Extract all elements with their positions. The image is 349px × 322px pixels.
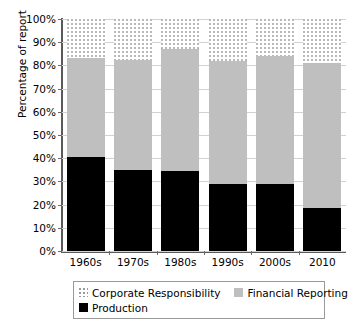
x-axis-tick-labels: 1960s1970s1980s1990s2000s2010	[62, 256, 346, 274]
y-axis-tick-label: 40%	[9, 152, 56, 164]
bar-1990s	[209, 19, 247, 251]
legend-label-financial-reporting: Financial Reporting	[247, 287, 347, 299]
y-axis-tick-label: 30%	[9, 175, 56, 187]
y-axis-tick-mark	[58, 251, 62, 252]
x-axis-tick-label: 1980s	[156, 256, 204, 268]
bar-segment-corporate-responsibility	[209, 19, 247, 61]
y-axis-tick-mark	[58, 19, 62, 20]
legend-label-corporate-responsibility: Corporate Responsibility	[92, 287, 220, 299]
plot-area: 0%10%20%30%40%50%60%70%80%90%100%	[62, 19, 346, 251]
x-axis-tick-label: 1970s	[109, 256, 157, 268]
bar-segment-financial-reporting	[67, 58, 105, 157]
bar-segment-corporate-responsibility	[67, 19, 105, 58]
bar-segment-production	[303, 208, 341, 251]
bar-segment-financial-reporting	[114, 60, 152, 170]
bar-1960s	[67, 19, 105, 251]
legend-row-1: Corporate Responsibility Financial Repor…	[79, 285, 319, 300]
y-axis-tick-label: 20%	[9, 199, 56, 211]
y-axis-tick-label: 50%	[9, 129, 56, 141]
x-axis-tick-mark	[251, 251, 252, 255]
legend-swatch-black-icon	[79, 303, 88, 312]
y-axis-tick-mark	[58, 135, 62, 136]
y-axis-tick-mark	[58, 205, 62, 206]
y-axis-tick-label: 60%	[9, 106, 56, 118]
y-axis-tick-mark	[58, 158, 62, 159]
x-axis-tick-mark	[109, 251, 110, 255]
bar-segment-financial-reporting	[256, 56, 294, 184]
bar-2000s	[256, 19, 294, 251]
bar-2010	[303, 19, 341, 251]
bar-segment-production	[256, 184, 294, 251]
x-axis-tick-mark	[204, 251, 205, 255]
bar-1970s	[114, 19, 152, 251]
y-axis-tick-label: 100%	[9, 13, 56, 25]
legend-label-production: Production	[92, 302, 148, 314]
legend-item-production: Production	[79, 302, 148, 314]
y-axis-tick-label: 10%	[9, 222, 56, 234]
legend-item-corporate-responsibility: Corporate Responsibility	[79, 287, 220, 299]
bar-segment-financial-reporting	[209, 61, 247, 184]
legend-item-financial-reporting: Financial Reporting	[234, 287, 347, 299]
y-axis-tick-mark	[58, 89, 62, 90]
bar-segment-production	[161, 171, 199, 251]
y-axis-tick-mark	[58, 65, 62, 66]
x-axis-tick-label: 2000s	[251, 256, 299, 268]
y-axis-tick-label: 0%	[9, 245, 56, 257]
y-axis-tick-mark	[58, 42, 62, 43]
y-axis-tick-mark	[58, 181, 62, 182]
y-axis-tick-mark	[58, 112, 62, 113]
bar-segment-financial-reporting	[303, 63, 341, 208]
y-axis-tick-label: 90%	[9, 36, 56, 48]
bar-segment-corporate-responsibility	[161, 19, 199, 49]
legend-row-2: Production	[79, 300, 319, 315]
bar-segment-production	[114, 170, 152, 251]
bar-segment-corporate-responsibility	[114, 19, 152, 60]
legend-swatch-gray-icon	[234, 288, 243, 297]
bar-segment-production	[67, 157, 105, 251]
bar-segment-production	[209, 184, 247, 251]
y-axis-tick-mark	[58, 228, 62, 229]
bar-1980s	[161, 19, 199, 251]
bar-segment-corporate-responsibility	[256, 19, 294, 56]
x-axis-tick-mark	[157, 251, 158, 255]
x-axis-tick-label: 1960s	[62, 256, 110, 268]
stacked-bar-chart: Percentage of report 0%10%20%30%40%50%60…	[0, 0, 349, 322]
x-axis-tick-label: 1990s	[204, 256, 252, 268]
y-axis-tick-label: 70%	[9, 83, 56, 95]
x-axis-tick-label: 2010	[298, 256, 346, 268]
x-axis-tick-mark	[299, 251, 300, 255]
bar-segment-corporate-responsibility	[303, 19, 341, 63]
legend-swatch-dotted-icon	[79, 288, 88, 297]
y-axis-tick-label: 80%	[9, 59, 56, 71]
chart-legend: Corporate Responsibility Financial Repor…	[73, 281, 325, 319]
bar-segment-financial-reporting	[161, 49, 199, 171]
